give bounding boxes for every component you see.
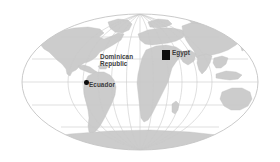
label-egypt: Egypt (172, 49, 190, 56)
world-map-figure: Dominican Republic Egypt Ecuador (0, 0, 280, 162)
ecuador-marker (84, 80, 89, 85)
egypt-marker (162, 50, 170, 60)
label-ecuador: Ecuador (89, 81, 115, 88)
label-dominican-republic-line-1: Dominican (100, 53, 133, 60)
label-dominican-republic: Dominican Republic (100, 53, 133, 68)
label-dominican-republic-line-2: Republic (100, 60, 133, 67)
label-egypt-line-1: Egypt (172, 49, 190, 56)
label-ecuador-line-1: Ecuador (89, 81, 115, 88)
world-map-graphic (0, 0, 280, 162)
